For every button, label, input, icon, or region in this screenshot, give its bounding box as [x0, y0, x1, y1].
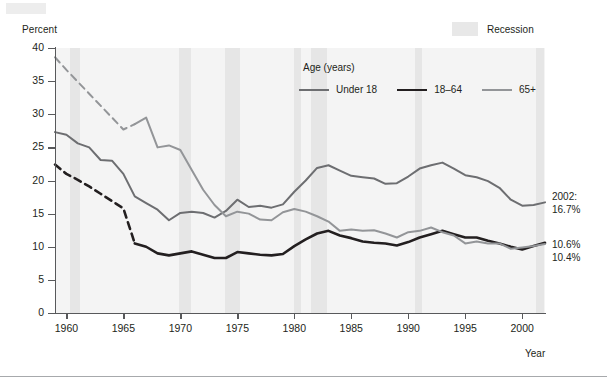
y-axis-tick [48, 114, 55, 115]
series-line-18-64 [135, 231, 545, 258]
x-axis-tick [66, 313, 67, 319]
recession-legend: Recession [452, 22, 534, 36]
legend-item-label: 65+ [519, 84, 536, 95]
x-axis-label: 1985 [331, 322, 371, 334]
y-axis-label: 25 [20, 140, 44, 152]
x-axis-tick [522, 313, 523, 319]
y-axis-tick [48, 214, 55, 215]
series-line-under-18 [55, 132, 545, 220]
x-axis-label: 1995 [445, 322, 485, 334]
y-axis-label: 30 [20, 107, 44, 119]
y-axis-tick [48, 313, 55, 314]
legend-item-label: 18–64 [434, 84, 462, 95]
x-axis-tick [294, 313, 295, 319]
series-line-65- [55, 57, 135, 129]
x-axis-tick [123, 313, 124, 319]
series-line-18-64 [55, 165, 135, 244]
y-axis-tick [48, 48, 55, 49]
x-axis-label: 1980 [274, 322, 314, 334]
x-axis-tick [465, 313, 466, 319]
y-axis-label: 35 [20, 74, 44, 86]
x-axis-tick [408, 313, 409, 319]
legend-item[interactable]: 65+ [482, 84, 536, 95]
annotation-line: 10.4% [552, 252, 580, 265]
x-axis-tick [351, 313, 352, 319]
y-axis-label: 5 [20, 273, 44, 285]
x-axis-label: 1965 [103, 322, 143, 334]
x-axis-label: 1990 [388, 322, 428, 334]
legend-title: Age (years) [299, 62, 556, 73]
legend-item[interactable]: Under 18 [299, 84, 377, 95]
y-axis-tick [48, 147, 55, 148]
line-swatch [482, 89, 512, 91]
x-axis-label: 2000 [502, 322, 542, 334]
annotation-adults: 10.6% 10.4% [552, 239, 580, 264]
y-axis-label: 40 [20, 41, 44, 53]
legend-items: Under 1818–6465+ [299, 84, 556, 95]
footer-divider [0, 376, 607, 377]
x-axis-line [55, 313, 546, 314]
x-axis-tick [180, 313, 181, 319]
y-axis-title: Percent [22, 24, 57, 35]
annotation-under18: 2002: 16.7% [552, 191, 580, 216]
x-axis-label: 1975 [217, 322, 257, 334]
y-axis-label: 15 [20, 207, 44, 219]
x-axis-label: 1970 [160, 322, 200, 334]
line-swatch [397, 89, 427, 91]
x-axis-label: 1960 [46, 322, 86, 334]
y-axis-tick [48, 280, 55, 281]
legend-item-label: Under 18 [336, 84, 377, 95]
chart-page: Percent Year Recession Age (years) Under… [0, 0, 607, 388]
recession-legend-label: Recession [487, 24, 534, 35]
y-axis-label: 0 [20, 306, 44, 318]
annotation-line: 16.7% [552, 204, 580, 217]
y-axis-tick [48, 181, 55, 182]
y-axis-label: 10 [20, 240, 44, 252]
y-axis-line [55, 47, 56, 314]
annotation-line: 10.6% [552, 239, 580, 252]
series-line-65- [135, 118, 545, 249]
y-axis-tick [48, 81, 55, 82]
plot-area: Age (years) Under 1818–6465+ [55, 48, 545, 313]
x-axis-tick [237, 313, 238, 319]
annotation-line: 2002: [552, 191, 580, 204]
y-axis-label: 20 [20, 174, 44, 186]
page-top-marker-box [6, 3, 46, 14]
series-legend: Age (years) Under 1818–6465+ [299, 62, 556, 95]
legend-item[interactable]: 18–64 [397, 84, 462, 95]
line-swatch [299, 89, 329, 91]
recession-swatch-icon [452, 22, 478, 36]
y-axis-tick [48, 247, 55, 248]
x-axis-title: Year [525, 348, 545, 359]
